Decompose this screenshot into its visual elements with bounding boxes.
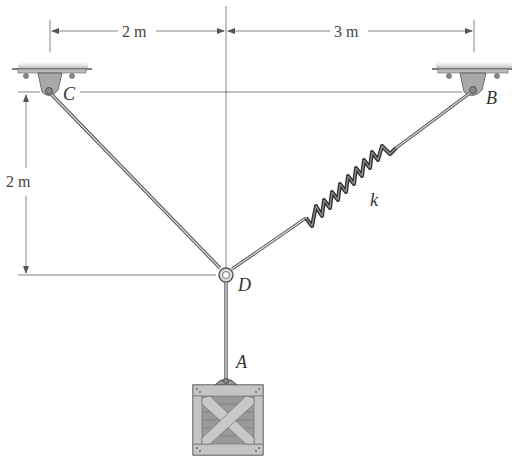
cable-cd (52, 95, 220, 268)
point-label-a: A (235, 352, 248, 372)
point-label-b: B (486, 88, 497, 108)
spring-db (232, 93, 470, 269)
point-label-d: D (237, 275, 251, 295)
point-label-c: C (63, 84, 76, 104)
diagram-canvas: 2 m 3 m 2 m C B k (0, 0, 527, 465)
spring-label-k: k (370, 190, 379, 210)
spring-coil (306, 146, 396, 226)
ring-d (219, 268, 233, 282)
dim-label-2m-horizontal: 2 m (122, 23, 147, 40)
support-c (12, 60, 92, 96)
crate (193, 385, 263, 455)
support-b (432, 60, 512, 96)
dim-label-3m-horizontal: 3 m (334, 23, 359, 40)
dim-label-2m-vertical: 2 m (6, 173, 31, 190)
